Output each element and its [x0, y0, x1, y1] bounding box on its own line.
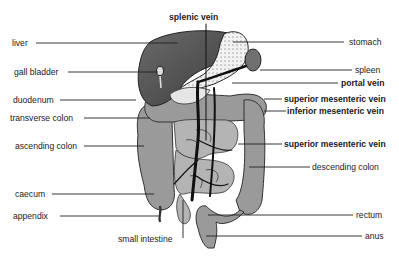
label-descending-colon: descending colon — [312, 162, 379, 172]
spleen-shape — [245, 49, 261, 71]
label-rectum: rectum — [356, 210, 382, 220]
label-transverse-colon: transverse colon — [10, 113, 73, 123]
digestive-system-diagram: liver gall bladder duodenum transverse c… — [0, 0, 399, 256]
label-small-intestine: small intestine — [118, 234, 172, 244]
label-ascending-colon: ascending colon — [15, 141, 77, 151]
label-liver: liver — [12, 38, 28, 48]
appendix-shape — [159, 206, 160, 222]
label-inferior-mesenteric-vein: inferior mesenteric vein — [287, 106, 384, 116]
anatomy-illustration — [0, 0, 399, 256]
label-anus: anus — [365, 231, 384, 241]
label-spleen: spleen — [355, 65, 380, 75]
label-duodenum: duodenum — [13, 95, 54, 105]
label-superior-mesenteric-vein-1: superior mesenteric vein — [284, 94, 386, 104]
label-superior-mesenteric-vein-2: superior mesenteric vein — [284, 139, 386, 149]
label-portal-vein: portal vein — [341, 78, 384, 88]
label-caecum: caecum — [15, 189, 45, 199]
label-gall-bladder: gall bladder — [14, 67, 58, 77]
label-stomach: stomach — [349, 37, 381, 47]
label-splenic-vein: splenic vein — [169, 12, 218, 22]
label-appendix: appendix — [13, 211, 48, 221]
